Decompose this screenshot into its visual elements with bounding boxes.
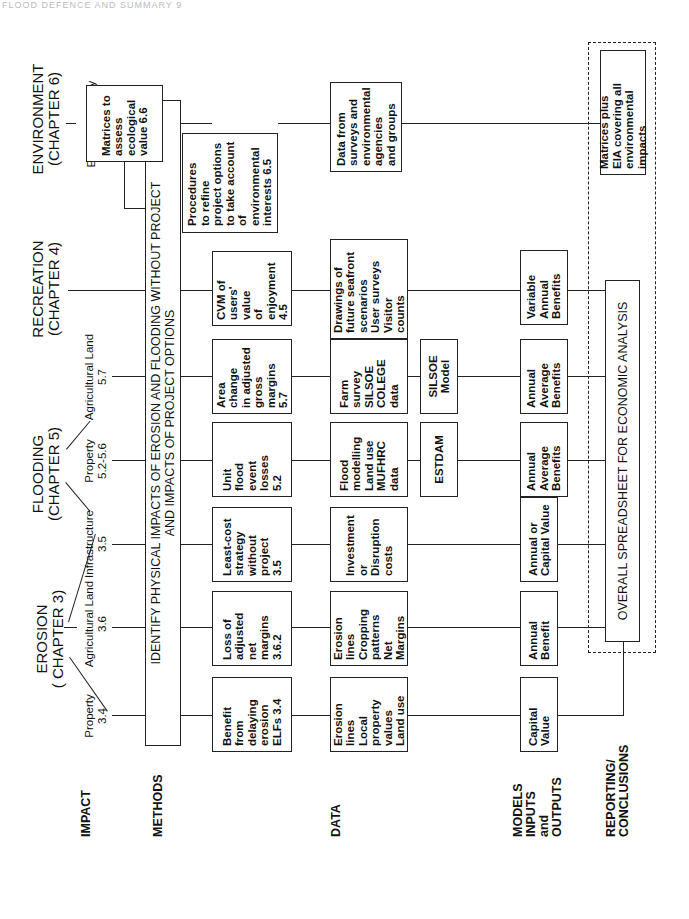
output-capital-value: Capital Value bbox=[520, 677, 558, 752]
output-annual-benefit: Annual Benefit bbox=[520, 591, 558, 666]
data-erosion-property: Erosion lines Local property values Land… bbox=[330, 677, 408, 752]
chapter-recreation: RECREATION (CHAPTER 4) bbox=[30, 229, 62, 349]
impact-erosion-infrastructure: Infrastructure 3.5 bbox=[83, 499, 108, 589]
output-flooding-agland-benefits: Annual Average Benefits bbox=[520, 339, 568, 414]
row-label-models: MODELS INPUTS and OUTPUTS bbox=[512, 777, 564, 837]
output-recreation-variable: Variable Annual Benefits bbox=[520, 250, 568, 325]
chapter-environment: ENVIRONMENT (CHAPTER 6) bbox=[30, 54, 62, 184]
data-recreation-surveys: Drawings of future seafront scenarios Us… bbox=[330, 239, 408, 339]
impact-erosion-property: Property 3.4 bbox=[83, 681, 108, 751]
chapter-flooding: FLOODING (CHAPTER 5) bbox=[30, 414, 62, 534]
data-environment-agencies: Data from surveys and environmental agen… bbox=[330, 82, 402, 172]
overall-spreadsheet-bar: OVERALL SPREADSHEET FOR ECONOMIC ANALYSI… bbox=[605, 280, 640, 642]
page-header: FLOOD DEFENCE AND SUMMARY 9 bbox=[2, 0, 262, 10]
row-label-impact: IMPACT bbox=[80, 790, 93, 837]
output-annual-or-capital: Annual or Capital Value bbox=[520, 497, 558, 582]
model-estdam: ESTDAM bbox=[420, 422, 458, 497]
data-flooding-agland: Farm survey SILSOE COLEGE data bbox=[330, 339, 408, 414]
impact-flooding-property: Property 5.2-5.6 bbox=[83, 423, 108, 499]
eia-matrices-box: Matrices plus EIA covering all environme… bbox=[600, 50, 646, 175]
chapter-erosion: EROSION ( CHAPTER 3) bbox=[34, 574, 66, 704]
output-flooding-property-benefits: Annual Average Benefits bbox=[520, 422, 568, 497]
method-environment-matrices: Matrices to assess ecological value 6.6 bbox=[86, 85, 163, 162]
row-label-reporting: REPORTING/ CONCLUSIONS bbox=[605, 745, 631, 837]
model-silsoe: SILSOE Model bbox=[420, 339, 458, 414]
data-erosion-infrastructure: Investment or Disruption costs bbox=[330, 507, 408, 582]
method-erosion-agland: Loss of adjusted net margins 3.6.2 bbox=[212, 591, 292, 666]
methods-bar-identify-impacts: IDENTIFY PHYSICAL IMPACTS OF EROSION AND… bbox=[145, 100, 181, 746]
method-erosion-property: Benefit from delaying erosion ELFs 3.4 bbox=[212, 677, 292, 752]
row-label-data: DATA bbox=[330, 804, 343, 837]
flowchart-canvas: FLOOD DEFENCE AND SUMMARY 9 IMPACT METHO… bbox=[0, 0, 689, 919]
data-erosion-agland: Erosion lines Cropping patterns Net Marg… bbox=[330, 591, 408, 666]
data-flooding-property: Flood modelling Land use MUFHRC data bbox=[330, 422, 408, 497]
method-recreation-cvm: CVM of users' value of enjoyment 4.5 bbox=[212, 251, 292, 326]
method-erosion-infrastructure: Least-cost strategy without project 3.5 bbox=[212, 507, 292, 582]
method-flooding-agland: Area change in adjusted gross margins 5.… bbox=[212, 339, 292, 414]
method-flooding-property: Unit flood event losses 5.2 bbox=[212, 422, 292, 497]
row-label-methods: METHODS bbox=[152, 775, 165, 838]
method-environment-procedures: Procedures to refine project options to … bbox=[182, 133, 278, 233]
impact-flooding-agricultural-land: Agricultural Land 5.7 bbox=[83, 325, 108, 429]
